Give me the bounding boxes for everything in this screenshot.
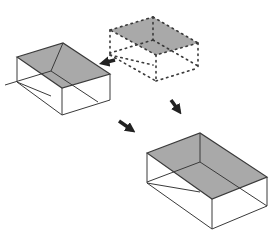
bottom-edge bbox=[212, 206, 267, 229]
box-left bbox=[5, 43, 110, 115]
diagram-canvas bbox=[0, 0, 279, 241]
inner-edge bbox=[5, 71, 51, 85]
box-dashed bbox=[110, 17, 198, 81]
shaded-top-face bbox=[110, 17, 198, 55]
shaded-top-face bbox=[17, 43, 110, 88]
arrow-to-left-icon bbox=[103, 60, 115, 63]
bottom-edge bbox=[110, 55, 156, 81]
arrow-to-large-icon bbox=[171, 100, 179, 111]
bottom-edge bbox=[17, 82, 62, 115]
arrow-down-left-icon bbox=[119, 121, 132, 130]
box-large bbox=[147, 133, 267, 229]
bottom-edge bbox=[62, 100, 110, 115]
bottom-edge bbox=[156, 68, 198, 81]
hidden-edge bbox=[110, 55, 153, 65]
